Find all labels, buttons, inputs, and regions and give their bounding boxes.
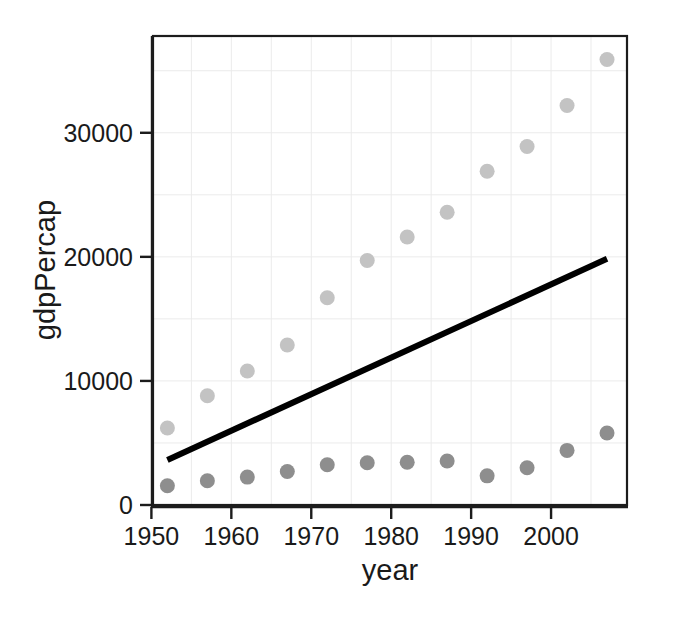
x-tick-label: 2000 (523, 522, 579, 550)
data-point (320, 457, 335, 472)
x-axis-title: year (362, 554, 419, 586)
x-tick-labels: 195019601970198019902000 (124, 522, 579, 550)
data-point (560, 98, 575, 113)
data-point (160, 421, 175, 436)
data-point (600, 426, 615, 441)
data-point (480, 468, 495, 483)
x-tick-label: 1970 (283, 522, 339, 550)
y-axis-title: gdpPercap (29, 200, 61, 340)
data-point (200, 388, 215, 403)
x-tick-label: 1950 (124, 522, 180, 550)
data-point (360, 455, 375, 470)
data-point (240, 364, 255, 379)
chart-container: 195019601970198019902000 010000200003000… (0, 0, 678, 630)
data-point (360, 253, 375, 268)
data-point (280, 337, 295, 352)
data-point (600, 52, 615, 67)
y-axis (140, 36, 152, 507)
y-tick-label: 30000 (63, 119, 133, 147)
scatter-plot: 195019601970198019902000 010000200003000… (0, 0, 678, 630)
data-point (440, 205, 455, 220)
data-point (200, 473, 215, 488)
x-tick-label: 1980 (363, 522, 419, 550)
y-tick-labels: 0100002000030000 (63, 119, 133, 519)
x-axis (151, 507, 628, 519)
data-point (520, 460, 535, 475)
data-point (400, 455, 415, 470)
data-point (560, 443, 575, 458)
data-point (480, 164, 495, 179)
y-tick-label: 20000 (63, 243, 133, 271)
data-point (160, 478, 175, 493)
x-tick-label: 1960 (204, 522, 260, 550)
data-point (400, 230, 415, 245)
data-point (320, 290, 335, 305)
y-tick-label: 0 (119, 491, 133, 519)
data-point (440, 453, 455, 468)
data-point (520, 139, 535, 154)
x-tick-label: 1990 (443, 522, 499, 550)
data-point (280, 464, 295, 479)
y-tick-label: 10000 (63, 367, 133, 395)
data-point (240, 470, 255, 485)
